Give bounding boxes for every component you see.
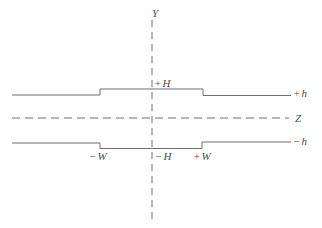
- label-plus-h: +h: [293, 87, 308, 99]
- label-y-axis: Y: [152, 7, 160, 19]
- label-minus-H: −H: [155, 150, 172, 162]
- label-z-axis: Z: [295, 112, 302, 124]
- label-plus-W: +W: [193, 150, 212, 162]
- label-plus-H: +H: [154, 77, 171, 89]
- waveguide-cross-section-figure: YZ+H+h−h−W−H+W: [0, 0, 322, 228]
- label-minus-h: −h: [293, 135, 308, 147]
- diagram-canvas: YZ+H+h−h−W−H+W: [0, 0, 322, 228]
- label-minus-W: −W: [89, 150, 108, 162]
